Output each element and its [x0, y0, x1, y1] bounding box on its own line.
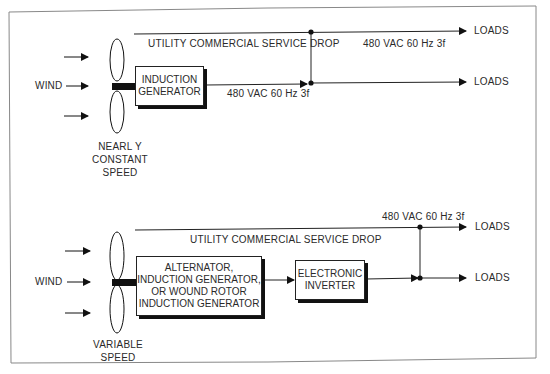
rotor-caption-2: VARIABLE SPEED: [88, 338, 148, 364]
loads-label-2a: LOADS: [475, 221, 510, 232]
alternator-generator-box: ALTERNATOR, INDUCTION GENERATOR, OR WOUN…: [136, 256, 262, 316]
loads-label-2b: LOADS: [475, 272, 510, 283]
loads-label-1b: LOADS: [474, 76, 509, 87]
wind-label-2: WIND: [35, 276, 62, 287]
induction-generator-box: INDUCTION GENERATOR: [135, 66, 204, 106]
electronic-inverter-box: ELECTRONIC INVERTER: [295, 260, 365, 300]
utility-line-label-2: UTILITY COMMERCIAL SERVICE DROP: [190, 234, 382, 245]
loads-label-1a: LOADS: [474, 25, 509, 36]
wind-label-1: WIND: [35, 80, 62, 91]
rotor-caption-1: NEARL Y CONSTANT SPEED: [90, 140, 150, 179]
generator-output-label-1: 480 VAC 60 Hz 3f: [227, 88, 310, 99]
utility-line-label-1: UTILITY COMMERCIAL SERVICE DROP: [148, 38, 340, 49]
utility-output-label-1: 480 VAC 60 Hz 3f: [363, 38, 446, 49]
diagram-canvas: [0, 0, 550, 374]
utility-output-label-2: 480 VAC 60 Hz 3f: [382, 211, 465, 222]
